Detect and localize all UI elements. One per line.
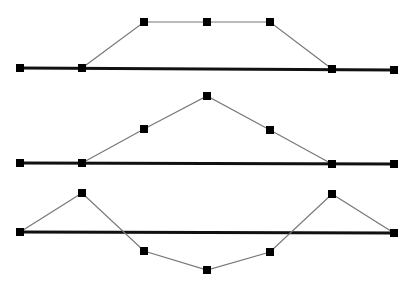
node-marker — [78, 159, 86, 167]
diagram-wave — [16, 189, 398, 274]
node-marker — [140, 18, 148, 26]
node-marker — [140, 125, 148, 133]
baseline-line — [20, 232, 394, 233]
deflection-path — [82, 22, 332, 69]
node-marker — [203, 92, 211, 100]
diagram-canvas — [0, 0, 414, 288]
node-marker — [140, 247, 148, 255]
node-marker — [390, 66, 398, 74]
diagram-triangle-peak — [16, 92, 398, 168]
node-marker — [203, 18, 211, 26]
baseline-line — [20, 163, 394, 164]
node-marker — [266, 126, 274, 134]
diagram-trapezoid-bump — [16, 18, 398, 74]
node-marker — [390, 160, 398, 168]
node-marker — [78, 64, 86, 72]
node-marker — [328, 190, 336, 198]
baseline-line — [20, 68, 394, 70]
node-marker — [266, 18, 274, 26]
node-marker — [390, 229, 398, 237]
deflection-path — [82, 96, 332, 164]
node-marker — [266, 248, 274, 256]
node-marker — [16, 64, 24, 72]
node-marker — [328, 65, 336, 73]
node-marker — [78, 189, 86, 197]
node-marker — [16, 228, 24, 236]
node-marker — [203, 266, 211, 274]
node-marker — [328, 160, 336, 168]
node-marker — [16, 159, 24, 167]
